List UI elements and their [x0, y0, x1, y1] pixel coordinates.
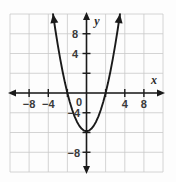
x-tick-label--8: −8 — [23, 98, 36, 110]
parabola-chart: −8 −4 4 8 0 8 4 −4 −8 x y — [0, 0, 176, 182]
graph-figure: −8 −4 4 8 0 8 4 −4 −8 x y — [0, 0, 176, 182]
y-tick-label-8: 8 — [72, 28, 78, 40]
x-tick-label--4: −4 — [42, 98, 55, 110]
x-tick-label-8: 8 — [141, 98, 147, 110]
y-axis-label: y — [92, 14, 100, 28]
y-tick-label--4: −4 — [67, 107, 80, 119]
x-tick-label-4: 4 — [122, 98, 129, 110]
y-tick-label--8: −8 — [67, 147, 80, 159]
y-tick-label-4: 4 — [72, 48, 79, 60]
x-axis-label: x — [150, 73, 157, 87]
